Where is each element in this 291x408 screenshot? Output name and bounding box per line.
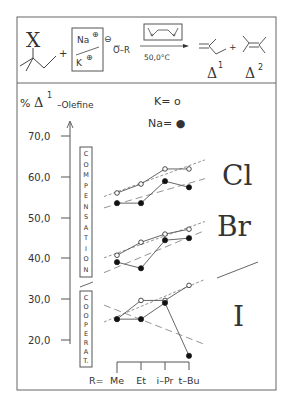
plus-sign: + xyxy=(59,48,67,59)
halogen-cl-label: Cl xyxy=(222,159,252,192)
halogen-br-label: Br xyxy=(217,210,252,243)
filled-circle-marker-icon xyxy=(162,300,167,305)
cooperation-text: C O O P E R A T. xyxy=(82,294,88,365)
svg-text:N: N xyxy=(84,266,89,274)
filled-circle-marker-icon xyxy=(186,185,191,190)
series-group-cl xyxy=(104,160,205,208)
open-circle-marker-icon xyxy=(163,167,168,172)
open-circle-marker-icon xyxy=(163,232,168,237)
filled-circle-marker-icon xyxy=(162,238,167,243)
filled-circle-marker-icon xyxy=(186,236,191,241)
filled-circle-marker-icon xyxy=(186,353,191,358)
open-circle-marker-icon xyxy=(187,167,192,172)
filled-circle-marker-icon xyxy=(114,317,119,322)
plot-area xyxy=(104,160,205,359)
svg-text:T.: T. xyxy=(82,357,88,365)
halogen-i-label: I xyxy=(233,300,244,333)
open-circle-marker-icon xyxy=(187,227,192,232)
svg-text:A: A xyxy=(84,348,89,356)
series-line-k xyxy=(117,169,189,193)
alkoxide: O–R xyxy=(113,45,130,55)
filled-circle-marker-icon xyxy=(138,266,143,271)
svg-text:C: C xyxy=(84,150,89,158)
svg-text:M: M xyxy=(83,171,89,179)
svg-text:E: E xyxy=(84,330,88,338)
plus-charge-icon: ⊕ xyxy=(86,53,93,62)
series-group-br xyxy=(104,221,205,272)
series-group-i xyxy=(104,279,205,358)
svg-text:O: O xyxy=(83,312,88,320)
legend-na: Na= ● xyxy=(148,117,185,130)
x-axis: R= Me Et i–Pr t–Bu xyxy=(89,362,200,386)
product-delta1-structure xyxy=(199,39,226,54)
open-circle-marker-icon xyxy=(115,253,120,258)
series-line-k xyxy=(117,229,189,255)
y-title-suffix: –Olefine xyxy=(57,100,94,110)
conditions: 50,0°C xyxy=(144,53,170,62)
y-tick-label: 50,0 xyxy=(28,213,50,224)
y-ticks xyxy=(61,136,70,340)
compensation-text: C O M P E N S A T I O N xyxy=(83,150,89,274)
svg-text:I: I xyxy=(85,245,87,253)
open-circle-marker-icon xyxy=(115,191,120,196)
y-tick-label: 30,0 xyxy=(28,294,50,305)
alkyl-skeleton-icon xyxy=(20,56,56,68)
y-title-delta: Δ xyxy=(34,95,43,110)
cation-na: Na xyxy=(77,35,89,45)
y-title-prefix: % xyxy=(20,97,30,110)
y-tick-label: 40,0 xyxy=(28,253,50,264)
svg-text:T: T xyxy=(83,234,88,242)
y-tick-label: 20,0 xyxy=(28,335,50,346)
legend: % Δ 1 –Olefine K= o Na= ● xyxy=(20,91,185,130)
open-circle-marker-icon xyxy=(187,283,192,288)
x-label-tbu: t–Bu xyxy=(178,375,199,386)
filled-circle-marker-icon xyxy=(138,317,143,322)
svg-text:R: R xyxy=(84,339,89,347)
cation-k: K xyxy=(76,58,83,68)
svg-text:A: A xyxy=(84,224,89,232)
plus-charge-icon: ⊕ xyxy=(92,30,99,39)
filled-circle-marker-icon xyxy=(114,260,119,265)
slash-divider xyxy=(80,282,93,287)
open-circle-marker-icon xyxy=(139,182,144,187)
minus-charge-icon: ⊖ xyxy=(104,34,112,44)
y-title-sup: 1 xyxy=(47,91,52,100)
filled-circle-marker-icon xyxy=(162,179,167,184)
svg-text:O: O xyxy=(83,161,88,169)
x-label-me: Me xyxy=(110,375,124,386)
series-line-na xyxy=(117,181,189,203)
svg-text:E: E xyxy=(84,192,88,200)
legend-k: K= o xyxy=(154,95,181,108)
svg-text:S: S xyxy=(84,213,88,221)
delta1-sup: 1 xyxy=(218,61,223,70)
open-circle-marker-icon xyxy=(139,240,144,245)
x-prefix: R= xyxy=(89,375,104,386)
y-tick-label: 70,0 xyxy=(28,131,50,142)
filled-circle-marker-icon xyxy=(138,201,143,206)
series-line-na xyxy=(117,238,189,268)
delta2-sup: 2 xyxy=(258,63,263,72)
product-delta2-structure xyxy=(243,36,266,53)
trend-line xyxy=(104,305,205,344)
filled-circle-marker-icon xyxy=(114,201,119,206)
svg-text:O: O xyxy=(83,255,88,263)
svg-text:O: O xyxy=(83,303,88,311)
svg-text:N: N xyxy=(84,203,89,211)
svg-text:C: C xyxy=(84,294,89,302)
y-axis: 70,0 60,0 50,0 40,0 30,0 20,0 xyxy=(28,121,73,346)
plus-sign: + xyxy=(229,42,237,52)
outer-frame xyxy=(17,17,276,390)
diglyme-icon xyxy=(148,28,178,36)
x-label-ipr: i–Pr xyxy=(157,375,174,386)
delta1-label: Δ xyxy=(207,65,217,81)
reaction-scheme: X + Na ⊕ K ⊕ ⊖ O–R 50,0°C + xyxy=(20,24,266,81)
arrow-head-icon xyxy=(183,44,189,48)
slash-divider xyxy=(217,262,258,278)
svg-text:P: P xyxy=(84,182,88,190)
delta2-label: Δ xyxy=(245,65,255,81)
x-label-et: Et xyxy=(136,375,146,386)
svg-text:P: P xyxy=(84,321,88,329)
diagram-canvas: X + Na ⊕ K ⊕ ⊖ O–R 50,0°C + xyxy=(0,0,291,408)
open-circle-marker-icon xyxy=(139,298,144,303)
y-tick-label: 60,0 xyxy=(28,172,50,183)
